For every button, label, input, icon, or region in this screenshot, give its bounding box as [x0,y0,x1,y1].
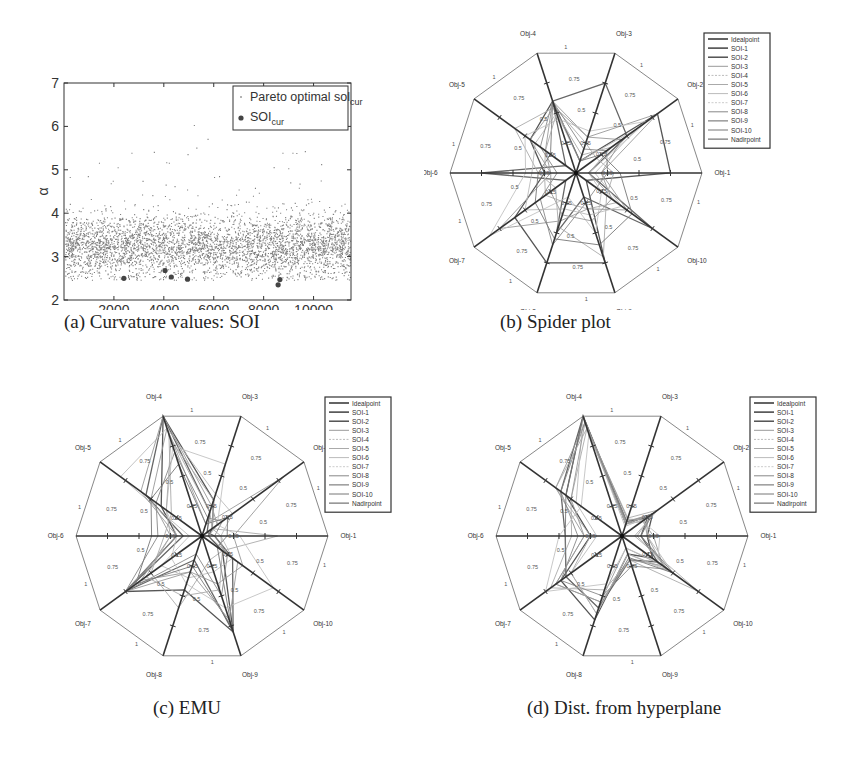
legend-entry: Idealpoint [731,36,759,44]
ring-label: 0.5 [577,581,585,587]
ring-label: 0.5 [630,195,638,201]
ring-label: 0.75 [514,95,525,101]
y-tick-label: 7 [51,75,59,91]
ring-label: 0.5 [659,485,667,491]
axis-label-obj-4: Obj-4 [520,30,536,38]
axis-label-obj-7: Obj-7 [75,620,91,628]
axis-label-obj-2: Obj-2 [733,444,749,452]
ring-label: 1 [691,122,694,128]
scatter-plot-canvas: 234567200040006000800010000Sol IDαPareto… [0,60,400,310]
legend-entry: SOI-2 [731,54,748,61]
axis-label-obj-9: Obj-9 [616,308,632,310]
ring-label: 0.5 [514,145,522,151]
legend-entry: SOI-5 [352,445,369,452]
ring-label: 0.5 [680,519,688,525]
ring-label: 0.5 [634,156,642,162]
ring-label: 1 [118,437,121,443]
ring-label: 0.25 [627,563,638,569]
axis-label-obj-4: Obj-4 [146,393,162,401]
legend-entry: SOI-4 [731,72,748,79]
ring-label: 0.25 [222,514,233,520]
ring-label: 1 [452,141,455,147]
radar-plot-canvas: 0.250.50.751Obj-10.250.50.751Obj-20.250.… [424,0,848,310]
caption-b: (b) Spider plot [500,311,611,333]
ring-label: 1 [190,407,193,413]
legend: IdealpointSOI-1SOI-2SOI-3SOI-4SOI-5SOI-6… [704,33,770,148]
ring-label: 0.5 [651,587,659,593]
chart-d-dist-hyperplane: 0.250.50.751Obj-10.250.50.751Obj-20.250.… [424,380,848,690]
ring-label: 0.5 [624,470,632,476]
ring-label: 1 [564,44,567,50]
legend-entry: SOI-9 [352,481,369,488]
ring-label: 1 [283,629,286,635]
chart-c-emu: 0.250.50.751Obj-10.250.50.751Obj-20.250.… [0,380,424,690]
legend-entry: SOI-9 [777,481,794,488]
legend-entry: SOI-10 [731,127,752,134]
ring-label: 0.5 [260,519,268,525]
soi-point [185,277,190,282]
ring-label: 0.75 [195,439,206,445]
ring-label: 0.5 [586,479,594,485]
ring-label: 1 [492,74,495,80]
legend-entry: SOI-8 [352,472,369,479]
ring-label: 0.75 [563,611,574,617]
legend-entry: SOI-6 [352,454,369,461]
axis-label-obj-3: Obj-3 [242,393,258,401]
ring-label: 1 [211,659,214,665]
legend-entry: Idealpoint [352,400,380,408]
ring-label: 0.75 [569,76,580,82]
ring-label: 0.25 [539,170,550,176]
axis-label-obj-1: Obj-1 [760,532,776,540]
legend-entry: SOI-3 [731,63,748,70]
axis-label-obj-8: Obj-8 [520,308,536,310]
legend-entry: SOI-5 [731,81,748,88]
legend: IdealpointSOI-1SOI-2SOI-3SOI-4SOI-5SOI-6… [750,397,816,512]
ring-label: 0.25 [228,533,239,539]
ring-label: 0.75 [106,506,117,512]
ring-label: 0.25 [171,552,182,558]
axis-label-obj-8: Obj-8 [146,671,162,679]
ring-label: 0.5 [676,558,684,564]
legend-entry: SOI-10 [352,491,373,498]
legend-entry: SOI-1 [777,409,794,416]
ring-label: 1 [631,659,634,665]
ring-label: 0.75 [527,564,538,570]
axis-label-obj-9: Obj-9 [242,671,258,679]
ring-label: 0.75 [625,92,636,98]
ring-label: 0.25 [207,563,218,569]
axis-label-obj-6: Obj-6 [424,169,438,177]
ring-label: 0.75 [140,458,151,464]
soi-point [276,282,281,287]
ring-label: 0.25 [602,170,613,176]
ring-label: 0.25 [648,533,659,539]
soi-point [162,268,167,273]
ring-label: 0.5 [204,470,212,476]
ring-label: 1 [657,266,660,272]
ring-label: 0.25 [165,533,176,539]
axis-label-obj-6: Obj-6 [48,532,64,540]
soi-point [277,277,282,282]
ring-label: 0.5 [557,547,565,553]
ring-label: 0.75 [671,455,682,461]
x-tick-label: 10000 [294,302,333,310]
ideal-point [574,171,578,175]
axis-label-obj-7: Obj-7 [495,620,511,628]
ring-label: 1 [266,425,269,431]
ring-label: 1 [498,504,501,510]
ring-label: 1 [135,641,138,647]
soi-point [121,276,126,281]
ring-label: 0.25 [585,533,596,539]
ideal-point [620,534,624,538]
legend-entry: SOI-10 [777,491,798,498]
chart-b-spider-plot: 0.250.50.751Obj-10.250.50.751Obj-20.250.… [424,0,848,310]
legend: IdealpointSOI-1SOI-2SOI-3SOI-4SOI-5SOI-6… [325,397,391,512]
ring-label: 0.25 [187,503,198,509]
ring-label: 0.25 [591,515,602,521]
ring-label: 0.25 [580,140,591,146]
legend-entry: Idealpoint [777,400,805,408]
axis-label-obj-4: Obj-4 [566,393,582,401]
legend-entry: Nadirpoint [731,136,761,144]
legend-entry: SOI-8 [731,108,748,115]
ring-label: 0.5 [256,558,264,564]
axis-label-obj-5: Obj-5 [75,444,91,452]
